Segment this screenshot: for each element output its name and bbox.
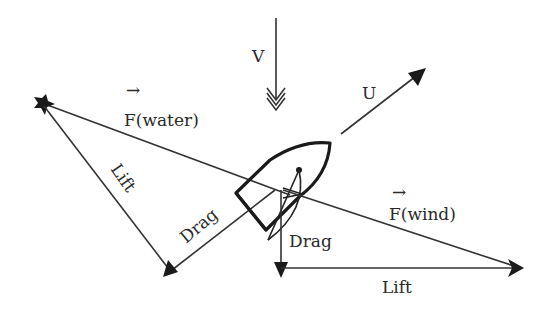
- water-lift-arrow: [44, 106, 168, 268]
- wind-lift-arrow: [281, 259, 524, 277]
- vector-arrow-water: →: [126, 80, 140, 100]
- star-arrowhead-icon: [34, 94, 55, 115]
- vector-arrow-wind: →: [392, 182, 406, 202]
- label-drag-water: Drag: [176, 204, 222, 247]
- force-diagram: V U → F(water) Lift Drag Drag: [0, 0, 550, 316]
- label-drag-wind: Drag: [289, 231, 332, 251]
- boat-velocity-arrow: [341, 68, 426, 134]
- sailboat-hull: [236, 143, 330, 230]
- label-u: U: [362, 83, 376, 103]
- wind-velocity-arrow: [267, 18, 285, 110]
- label-f-wind: F(wind): [389, 204, 456, 224]
- label-f-water: F(water): [124, 110, 199, 130]
- label-lift-wind: Lift: [382, 277, 412, 297]
- label-v: V: [251, 46, 265, 66]
- sail: [268, 167, 302, 240]
- label-lift-water: Lift: [107, 160, 141, 196]
